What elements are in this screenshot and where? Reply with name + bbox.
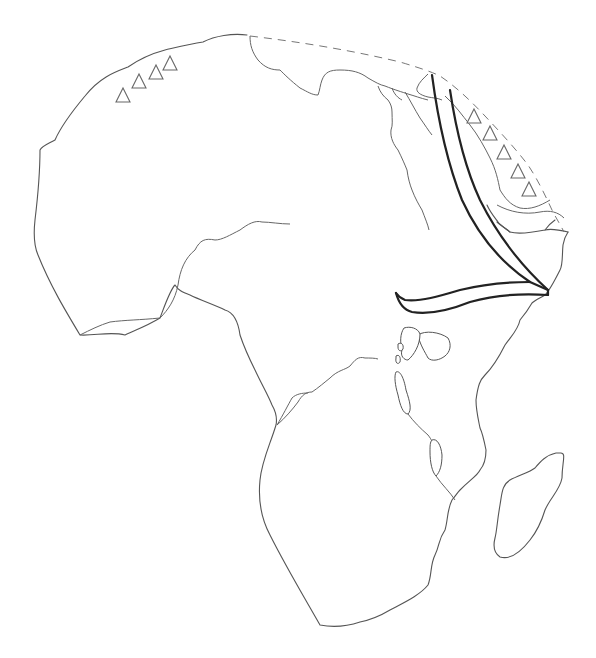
triangle-marker-icon	[511, 164, 525, 178]
sahel-line	[80, 318, 160, 335]
arrow-band-lower-west	[396, 293, 548, 313]
horn-of-africa-coast	[487, 205, 568, 233]
africa-coastline	[34, 34, 568, 626]
madagascar	[494, 453, 564, 558]
west-africa-inner-line	[160, 221, 290, 318]
lake-albert	[401, 327, 420, 360]
triangle-marker-icon	[497, 145, 511, 159]
arrow-head-tip	[530, 282, 548, 295]
northwest-triangle-markers	[116, 56, 177, 102]
lake-tanganyika	[395, 372, 410, 414]
lake-small-2	[396, 355, 400, 363]
triangle-marker-icon	[116, 88, 130, 102]
northeast-triangle-markers	[467, 109, 536, 196]
triangle-marker-icon	[483, 126, 497, 140]
triangle-marker-icon	[522, 182, 536, 196]
nile-river	[378, 86, 429, 230]
sinai-outline	[417, 74, 442, 100]
triangle-marker-icon	[132, 74, 146, 88]
dashed-boundary	[250, 36, 564, 232]
lake-victoria	[418, 332, 450, 360]
nile-branch	[392, 88, 402, 100]
congo-inner-line	[277, 357, 378, 425]
africa-map	[0, 0, 596, 658]
gulf-coast	[497, 205, 564, 218]
mediterranean-coast-inner	[250, 36, 428, 100]
lake-malawi	[430, 440, 442, 476]
triangle-marker-icon	[163, 56, 177, 70]
zambezi-line	[436, 476, 455, 500]
red-sea-west-shore	[405, 92, 432, 135]
lake-small-1	[398, 343, 403, 351]
triangle-marker-icon	[149, 65, 163, 79]
triangle-marker-icon	[467, 109, 481, 123]
arrow-band-upper-west	[396, 282, 530, 300]
